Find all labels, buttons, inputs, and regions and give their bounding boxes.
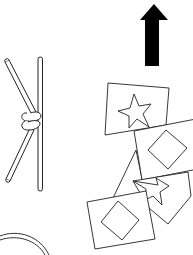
up-arrow-icon <box>140 4 168 66</box>
card-diamond-2 <box>87 191 155 249</box>
arc-icon <box>0 233 49 255</box>
knot-loop-upper <box>22 112 41 121</box>
arc-outer <box>0 233 49 255</box>
upper-diagonal-stick <box>5 60 36 115</box>
knot-loop-lower <box>22 121 40 130</box>
lower-diagonal-stick <box>6 128 34 181</box>
arc-inner <box>0 238 45 255</box>
knot-icon <box>5 57 43 191</box>
illustration-canvas <box>0 0 193 255</box>
